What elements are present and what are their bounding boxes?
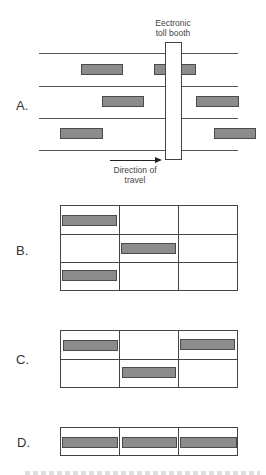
direction-label-line1: Direction of bbox=[100, 165, 170, 175]
car bbox=[62, 270, 117, 281]
direction-label-line2: travel bbox=[100, 175, 170, 185]
grid-divider bbox=[178, 206, 179, 290]
car bbox=[121, 243, 176, 254]
lane-line-2 bbox=[39, 86, 238, 87]
car bbox=[62, 215, 117, 226]
grid-divider bbox=[119, 428, 120, 455]
car bbox=[102, 96, 144, 107]
car bbox=[63, 340, 118, 351]
grid-divider bbox=[61, 359, 237, 360]
grid-divider bbox=[119, 206, 120, 290]
cutoff-caption bbox=[25, 471, 260, 475]
car bbox=[122, 367, 176, 378]
panel-d-label: D. bbox=[17, 435, 30, 450]
lane-line-4 bbox=[39, 150, 238, 151]
panel-c-label: C. bbox=[16, 352, 29, 367]
grid-divider bbox=[178, 428, 179, 455]
direction-arrow bbox=[110, 160, 157, 161]
grid-divider bbox=[61, 262, 237, 263]
arrow-head-icon bbox=[155, 157, 162, 163]
booth-label-line2: toll booth bbox=[145, 28, 201, 38]
direction-label: Direction of travel bbox=[100, 165, 170, 185]
car bbox=[196, 96, 239, 107]
lane-line-3 bbox=[39, 118, 238, 119]
car bbox=[60, 128, 103, 139]
car bbox=[81, 64, 123, 75]
panel-b-label: B. bbox=[16, 243, 28, 258]
lane-line-1 bbox=[39, 53, 238, 54]
booth-label-line1: Eectronic bbox=[145, 18, 201, 28]
car bbox=[62, 437, 118, 448]
car bbox=[180, 437, 237, 448]
car bbox=[180, 339, 235, 350]
car bbox=[214, 128, 256, 139]
car bbox=[122, 437, 177, 448]
booth-label: Eectronic toll booth bbox=[145, 18, 201, 38]
toll-booth bbox=[165, 42, 182, 160]
panel-a-label: A. bbox=[16, 98, 28, 113]
grid-divider bbox=[61, 234, 237, 235]
